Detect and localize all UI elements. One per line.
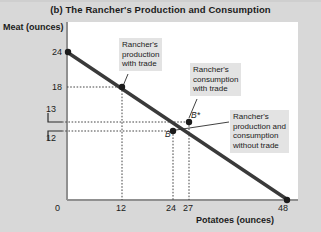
ppf-line	[67, 52, 288, 200]
figure-panel-b: (b) The Rancher's Production and Consump…	[0, 0, 321, 232]
marker-meat-intercept	[65, 49, 71, 55]
leader-production-with-trade	[123, 74, 128, 86]
marker-production-with-trade	[119, 84, 125, 90]
marker-potato-intercept	[284, 197, 290, 203]
leader-consumption-with-trade	[189, 99, 197, 118]
bracket-13	[48, 113, 62, 122]
chart-vector-overlay	[0, 0, 321, 232]
marker-point-b-star	[186, 119, 192, 125]
marker-point-b	[170, 128, 176, 134]
bracket-12	[48, 131, 62, 140]
leader-production-consumption-without-trade	[176, 122, 229, 130]
